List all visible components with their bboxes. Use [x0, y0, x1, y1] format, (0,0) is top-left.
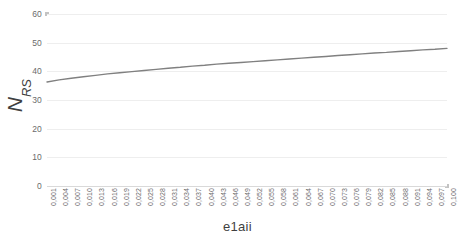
x-tick-label-7: 0,022 — [135, 188, 142, 206]
x-tick-label-3: 0,010 — [86, 188, 93, 206]
gridline-y-0 — [47, 186, 447, 187]
x-tick-label-4: 0,013 — [98, 188, 105, 206]
chart-figure: NRS 0102030405060 0,0010,0040,0070,0100,… — [0, 0, 475, 238]
x-tick-label-25: 0,076 — [353, 188, 360, 206]
x-tick-label-32: 0,097 — [438, 188, 445, 206]
x-tick-label-19: 0,058 — [280, 188, 287, 206]
x-tick-label-2: 0,007 — [74, 188, 81, 206]
y-tick-label-0: 0 — [24, 182, 42, 191]
x-tick-label-17: 0,052 — [256, 188, 263, 206]
y-tick-label-20: 20 — [24, 124, 42, 133]
y-tick-label-10: 10 — [24, 153, 42, 162]
x-tick-label-9: 0,028 — [159, 188, 166, 206]
x-tick-label-0: 0,001 — [50, 188, 57, 206]
y-tick-label-40: 40 — [24, 67, 42, 76]
y-axis-title-main: N — [3, 97, 26, 112]
x-tick-label-31: 0,094 — [426, 188, 433, 206]
x-tick-label-18: 0,055 — [268, 188, 275, 206]
x-tick-label-5: 0,016 — [111, 188, 118, 206]
x-tick-label-15: 0,046 — [232, 188, 239, 206]
y-tick-label-30: 30 — [24, 96, 42, 105]
x-tick-label-28: 0,085 — [389, 188, 396, 206]
x-tick-label-21: 0,064 — [305, 188, 312, 206]
plot-area — [47, 14, 447, 186]
x-tick-label-12: 0,037 — [195, 188, 202, 206]
x-tick-label-30: 0,091 — [414, 188, 421, 206]
y-axis-tick-labels: 0102030405060 — [24, 0, 42, 238]
x-axis-title: e1aii — [0, 219, 475, 234]
x-tick-label-6: 0,019 — [123, 188, 130, 206]
series-line-nrs — [47, 48, 447, 82]
x-tick-label-33: 0,100 — [450, 188, 457, 206]
x-tick-label-24: 0,073 — [341, 188, 348, 206]
x-tick-label-16: 0,049 — [244, 188, 251, 206]
x-tick-label-10: 0,031 — [171, 188, 178, 206]
y-tick-label-50: 50 — [24, 38, 42, 47]
x-tick-label-26: 0,079 — [365, 188, 372, 206]
x-tick-label-13: 0,040 — [208, 188, 215, 206]
x-tick-label-23: 0,070 — [329, 188, 336, 206]
x-tick-label-14: 0,043 — [220, 188, 227, 206]
x-tick-label-1: 0,004 — [62, 188, 69, 206]
x-axis-tick-labels: 0,0010,0040,0070,0100,0130,0160,0190,022… — [47, 188, 447, 220]
x-tick-label-27: 0,082 — [377, 188, 384, 206]
x-tick-label-11: 0,034 — [183, 188, 190, 206]
x-tick-label-29: 0,088 — [402, 188, 409, 206]
x-tick-label-22: 0,067 — [317, 188, 324, 206]
x-tick-label-20: 0,061 — [292, 188, 299, 206]
x-tick-label-8: 0,025 — [147, 188, 154, 206]
y-tick-label-60: 60 — [24, 10, 42, 19]
series-line-chart — [47, 14, 447, 186]
